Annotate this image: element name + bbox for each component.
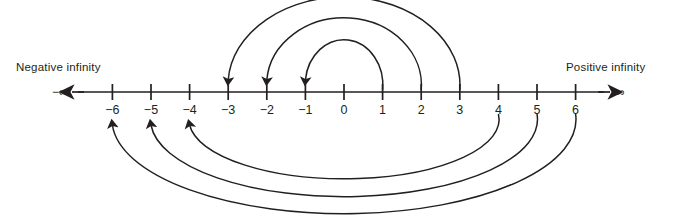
tick-label: −5 bbox=[144, 103, 158, 117]
opposite-arc-below bbox=[151, 114, 537, 197]
opposite-arc-below bbox=[112, 114, 576, 214]
tick-label: 5 bbox=[534, 103, 541, 117]
tick-label: −1 bbox=[298, 103, 312, 117]
positive-infinity-label: Positive infinity bbox=[566, 61, 645, 73]
opposite-arc-above bbox=[228, 0, 460, 90]
arc-group-above-axis bbox=[228, 0, 460, 90]
opposite-arc-below bbox=[190, 114, 499, 179]
tick-label: 3 bbox=[456, 103, 463, 117]
tick-label: −4 bbox=[182, 103, 196, 117]
opposite-arc-above bbox=[305, 40, 382, 90]
tick-label: −6 bbox=[105, 103, 119, 117]
negative-infinity-symbol: −∞ bbox=[52, 85, 68, 99]
number-line-figure: Negative infinity Positive infinity −∞ ∞… bbox=[0, 0, 682, 216]
opposite-arc-above bbox=[267, 18, 422, 90]
tick-label: 1 bbox=[379, 103, 386, 117]
tick-label: −2 bbox=[260, 103, 274, 117]
tick-label: 4 bbox=[495, 103, 502, 117]
tick-label: 0 bbox=[341, 103, 348, 117]
negative-infinity-label: Negative infinity bbox=[16, 61, 101, 73]
tick-label: 2 bbox=[418, 103, 425, 117]
tick-label: 6 bbox=[572, 103, 579, 117]
arc-group-below-axis bbox=[112, 114, 576, 214]
tick-label: −3 bbox=[221, 103, 235, 117]
positive-infinity-symbol: ∞ bbox=[616, 85, 625, 99]
